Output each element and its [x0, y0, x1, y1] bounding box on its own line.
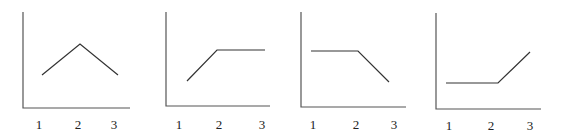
- x-tick-label: 1: [36, 117, 43, 132]
- data-line: [311, 51, 389, 82]
- x-tick-label: 1: [310, 117, 317, 132]
- x-tick-label: 1: [176, 117, 183, 132]
- chart-panel-3: 1 2 3: [301, 12, 406, 132]
- axes: [436, 13, 541, 109]
- x-tick-label: 2: [75, 117, 82, 132]
- chart-canvas: 1 2 3 1 2 3 1 2 3 1 2 3: [0, 0, 562, 136]
- x-tick-label: 3: [111, 117, 118, 132]
- data-line: [446, 52, 530, 83]
- axes: [301, 12, 406, 107]
- axes: [23, 12, 130, 108]
- x-tick-label: 2: [488, 118, 495, 133]
- x-tick-label: 2: [353, 117, 360, 132]
- data-line: [187, 50, 265, 81]
- axes: [166, 12, 270, 106]
- x-tick-label: 3: [259, 117, 266, 132]
- x-tick-label: 3: [527, 118, 534, 133]
- chart-panel-4: 1 2 3: [436, 13, 541, 133]
- chart-panel-2: 1 2 3: [166, 12, 270, 132]
- x-tick-label: 1: [446, 118, 453, 133]
- chart-panel-1: 1 2 3: [23, 12, 130, 132]
- x-tick-label: 2: [216, 117, 223, 132]
- x-tick-label: 3: [391, 117, 398, 132]
- data-line: [42, 44, 118, 75]
